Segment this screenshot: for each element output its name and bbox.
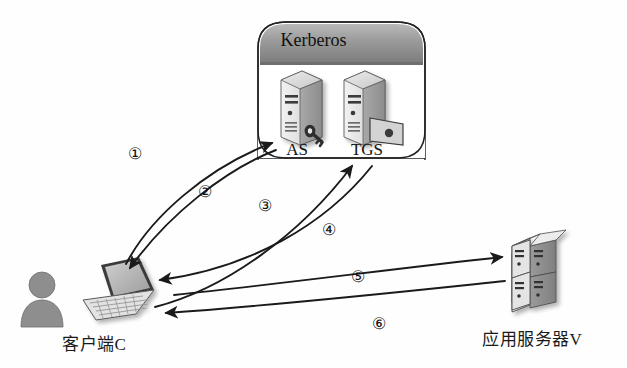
step-number-1: ① <box>128 144 142 163</box>
arrow-step-4 <box>160 166 372 280</box>
step-number-4: ④ <box>322 220 336 239</box>
step-number-3: ③ <box>258 196 272 215</box>
laptop-icon <box>83 257 154 320</box>
as-server-icon <box>281 71 322 145</box>
step-number-5: ⑤ <box>351 267 365 286</box>
as-label: AS <box>286 140 308 159</box>
client-label: 客户端C <box>62 330 126 355</box>
arrow-step-5 <box>174 257 502 295</box>
diagram-canvas: AS TGS <box>0 0 627 368</box>
kerberos-title: Kerberos <box>0 30 627 51</box>
step-number-2: ② <box>198 182 212 201</box>
kerberos-authentication-diagram: AS TGS <box>0 0 627 368</box>
arrow-step-2 <box>130 150 276 268</box>
appserver-label: 应用服务器V <box>482 325 582 350</box>
arrow-step-6 <box>166 281 505 313</box>
step-number-6: ⑥ <box>372 314 386 333</box>
rack-server-icon <box>512 230 566 312</box>
kerberos-header-underline <box>260 62 423 65</box>
user-silhouette-icon <box>21 272 63 327</box>
tgs-label: TGS <box>351 140 383 159</box>
